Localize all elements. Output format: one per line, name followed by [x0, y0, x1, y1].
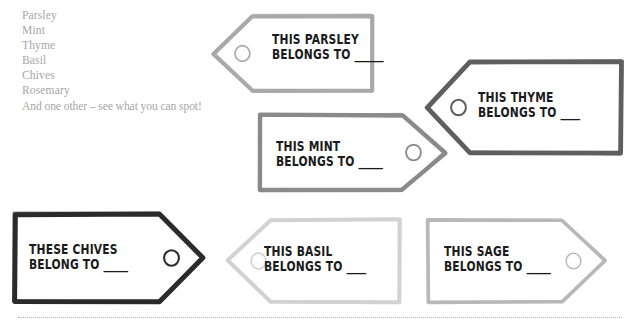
- tag-label-line1-chives: THESE CHIVES: [29, 242, 127, 257]
- tag-label-sage: THIS SAGEBELONGS TO _____: [444, 244, 550, 274]
- printable-herb-tags-page: Parsley Mint Thyme Basil Chives Rosemary…: [0, 0, 635, 333]
- tag-name-blank-parsley[interactable]: ______: [354, 46, 383, 63]
- tag-label-line2-chives: BELONG TO _____: [29, 257, 127, 272]
- tag-label-line2-parsley: BELONGS TO ______: [272, 47, 383, 62]
- tag-label-line2-basil: BELONGS TO ____: [264, 259, 366, 274]
- tag-parsley[interactable]: THIS PARSLEYBELONGS TO ______: [210, 14, 374, 93]
- tag-label-mint: THIS MINTBELONGS TO _____: [276, 139, 382, 169]
- herb-list-note: And one other – see what you can spot!: [22, 99, 252, 114]
- tag-label-line1-thyme: THIS THYME: [478, 90, 580, 105]
- tag-label-chives: THESE CHIVESBELONG TO _____: [29, 242, 127, 272]
- tag-name-blank-sage[interactable]: _____: [526, 258, 550, 275]
- tag-label-line1-basil: THIS BASIL: [264, 244, 366, 259]
- tag-mint[interactable]: THIS MINTBELONGS TO _____: [258, 113, 448, 192]
- tag-label-line2-sage: BELONGS TO _____: [444, 259, 550, 274]
- tag-name-blank-chives[interactable]: _____: [104, 256, 128, 273]
- tag-chives[interactable]: THESE CHIVESBELONG TO _____: [13, 212, 206, 304]
- tag-sage[interactable]: THIS SAGEBELONGS TO _____: [426, 218, 608, 304]
- tag-thyme[interactable]: THIS THYMEBELONGS TO ____: [424, 60, 623, 155]
- tag-label-line2-mint: BELONGS TO _____: [276, 154, 382, 169]
- tag-name-blank-mint[interactable]: _____: [358, 153, 382, 170]
- tag-label-line1-mint: THIS MINT: [276, 139, 382, 154]
- tag-label-line2-thyme: BELONGS TO ____: [478, 105, 580, 120]
- tag-label-line1-sage: THIS SAGE: [444, 244, 550, 259]
- tag-label-parsley: THIS PARSLEYBELONGS TO ______: [272, 32, 383, 62]
- tag-label-line1-parsley: THIS PARSLEY: [272, 32, 383, 47]
- tag-name-blank-basil[interactable]: ____: [346, 258, 365, 275]
- cut-line: [18, 317, 622, 318]
- tag-label-thyme: THIS THYMEBELONGS TO ____: [478, 90, 580, 120]
- tag-name-blank-thyme[interactable]: ____: [560, 104, 579, 121]
- tag-basil[interactable]: THIS BASILBELONGS TO ____: [224, 218, 402, 304]
- tag-label-basil: THIS BASILBELONGS TO ____: [264, 244, 366, 274]
